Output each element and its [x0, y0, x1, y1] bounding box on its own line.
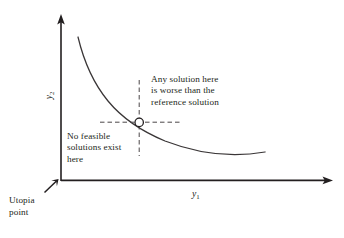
- x-axis-label: y1: [192, 188, 200, 199]
- open-circle-marker-icon: [135, 118, 143, 126]
- pareto-front-figure: Any solution here is worse than the refe…: [0, 0, 344, 238]
- x-axis: [61, 177, 333, 185]
- figure-canvas: [0, 0, 344, 238]
- worse-region-label: Any solution here is worse than the refe…: [151, 74, 219, 108]
- utopia-arrow-shaft: [45, 181, 57, 193]
- y-axis: [57, 14, 65, 181]
- infeasible-region-label: No feasible solutions exist here: [67, 131, 121, 165]
- x-axis-label-subscript: 1: [196, 193, 199, 200]
- y-axis-label: y2: [43, 84, 54, 108]
- y-axis-label-base: y: [43, 95, 54, 99]
- y-axis-label-subscript: 2: [48, 92, 55, 95]
- arrow-up-right-icon: [45, 179, 59, 193]
- utopia-point-label: Utopia point: [9, 195, 35, 218]
